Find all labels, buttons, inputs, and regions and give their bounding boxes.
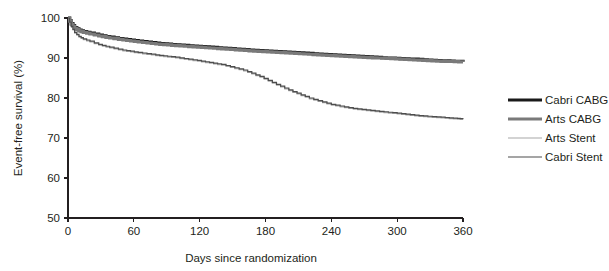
- y-tick-label-80: 80: [47, 92, 60, 104]
- x-tick-label-60: 60: [127, 225, 140, 237]
- legend-label-cabri-cabg: Cabri CABG: [545, 94, 608, 106]
- y-tick-label-100: 100: [41, 12, 60, 24]
- x-axis-title: Days since randomization: [185, 252, 317, 264]
- y-tick-label-90: 90: [47, 52, 60, 64]
- kaplan-meier-figure: 5060708090100 060120180240300360 Cabri C…: [0, 0, 609, 271]
- y-axis-title: Event-free survival (%): [12, 60, 24, 176]
- x-tick-label-240: 240: [322, 225, 341, 237]
- y-tick-label-50: 50: [47, 212, 60, 224]
- x-tick-label-180: 180: [256, 225, 275, 237]
- legend-label-arts-stent: Arts Stent: [545, 132, 596, 144]
- legend-label-arts-cabg: Arts CABG: [545, 113, 601, 125]
- legend-label-cabri-stent: Cabri Stent: [545, 151, 603, 163]
- survival-chart: 5060708090100 060120180240300360 Cabri C…: [0, 0, 609, 271]
- y-tick-label-60: 60: [47, 172, 60, 184]
- x-tick-label-120: 120: [190, 225, 209, 237]
- x-tick-label-360: 360: [453, 225, 472, 237]
- y-tick-label-70: 70: [47, 132, 60, 144]
- x-tick-label-0: 0: [65, 225, 71, 237]
- x-tick-label-300: 300: [388, 225, 407, 237]
